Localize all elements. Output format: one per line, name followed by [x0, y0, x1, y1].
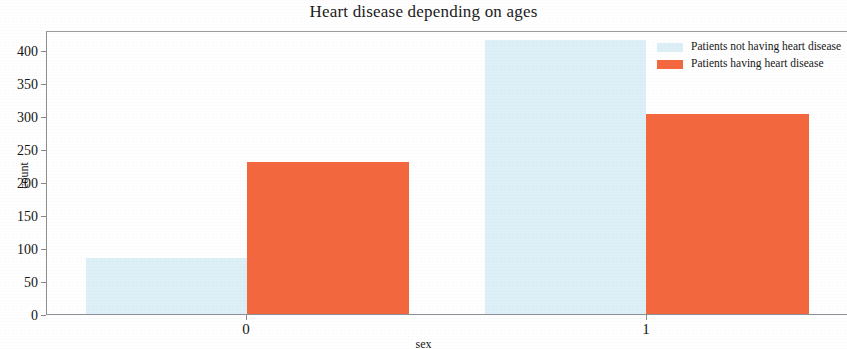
bar-sex1-not-having-heart-disease: [485, 40, 646, 315]
x-tick-label-0: 0: [226, 321, 266, 338]
x-axis-line: [46, 314, 847, 315]
bar-sex1-having-heart-disease: [646, 114, 809, 315]
chart-title: Heart disease depending on ages: [0, 2, 847, 22]
legend-swatch-icon-not-having: [657, 43, 683, 52]
x-tick-label-1: 1: [626, 321, 666, 338]
legend-item-having-heart-disease: Patients having heart disease: [657, 57, 847, 71]
bar-sex0-not-having-heart-disease: [86, 258, 247, 315]
y-tick-label-300: 300: [0, 111, 38, 125]
y-tick-label-50: 50: [0, 276, 38, 290]
legend-item-not-having-heart-disease: Patients not having heart disease: [657, 40, 847, 54]
x-axis-title: sex: [0, 337, 847, 349]
x-tick-mark-1: [646, 315, 647, 320]
legend-swatch-icon-having: [657, 60, 683, 69]
legend-label-not-having: Patients not having heart disease: [691, 41, 841, 53]
y-tick-label-0: 0: [0, 309, 38, 323]
plot-inner: [47, 32, 847, 315]
y-tick-label-100: 100: [0, 243, 38, 257]
y-tick-label-400: 400: [0, 45, 38, 59]
legend-label-having: Patients having heart disease: [691, 58, 824, 70]
bar-sex0-having-heart-disease: [247, 162, 409, 315]
y-axis-title: count: [17, 136, 32, 216]
y-tick-mark-0: [41, 315, 46, 316]
bar-chart-figure: Heart disease depending on ages 400 350 …: [0, 0, 847, 349]
plot-area: Patients not having heart disease Patien…: [46, 31, 847, 315]
chart-legend: Patients not having heart disease Patien…: [657, 40, 847, 74]
x-tick-mark-0: [246, 315, 247, 320]
y-tick-label-350: 350: [0, 78, 38, 92]
